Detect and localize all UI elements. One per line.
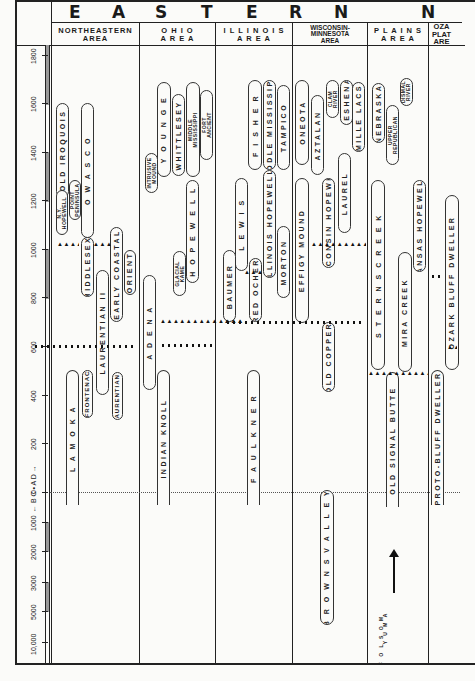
phase-bar: AZTALAN [311, 95, 324, 175]
phase-label: LAURENTIAN II [99, 291, 106, 375]
phase-label: RED OCHER [252, 258, 259, 322]
phase-bar: F I S H E R [248, 80, 262, 170]
phase-label: DISMAL RIVER [402, 81, 412, 103]
phase-bar: S T E R N S C R E E K [371, 180, 385, 370]
axis-tick-label: 800 [30, 292, 37, 304]
triangle-horizon-line: ▲▲▲▲▲▲▲▲▲▲▲▲ [368, 371, 428, 376]
phase-bar: OZARK BLUFF DWELLER [445, 195, 459, 370]
axis-tick [42, 582, 48, 583]
phase-label: TAMPICO [280, 103, 287, 152]
phase-label: OLD SIGNAL BUTTE [389, 386, 396, 494]
phase-label: MORTON [280, 239, 287, 285]
phase-bar: OLD COPPER [322, 322, 335, 392]
phase-bar: N.Y. HOPEWELL [56, 190, 68, 235]
axis-shade [46, 249, 49, 299]
phase-bar: LAURENTIAN II [96, 270, 109, 395]
phase-label: ORIENT [127, 252, 134, 293]
title-letter: N [334, 2, 348, 22]
phase-bar: ONEOTA [295, 80, 309, 165]
column-divider [139, 22, 140, 665]
phase-label: UPPER REPUBLICAN [388, 116, 398, 154]
phase-bar: FRONTENAC [82, 370, 93, 418]
phase-bar: L E W I S [235, 178, 248, 271]
phase-bar: ORIENT [124, 250, 136, 295]
phase-label: MIDDLE MISSISSIPPI [266, 80, 273, 170]
phase-label: O W A S C O [84, 136, 91, 205]
phase-label: MIRA CREEK [402, 277, 409, 346]
axis-shade [46, 152, 49, 202]
area-header-plains: P L A I N S A R E A [368, 22, 428, 46]
dotted-horizon-line [33, 345, 133, 348]
phase-label: WHITTLESEY [175, 100, 182, 170]
phase-label: AZTALAN [314, 110, 321, 160]
axis-shade [46, 522, 49, 552]
axis-tick-label: 3000 [30, 575, 37, 591]
phase-label: NEBRASKA [375, 83, 382, 143]
phase-label: L A M O K A [69, 404, 76, 471]
dotted-horizon-line [225, 321, 365, 324]
axis-tick-label: 200 [30, 438, 37, 450]
phase-bar: INTRUSIVE MOUND [145, 153, 158, 193]
phase-bar: F A U L K N E R [247, 370, 260, 505]
axis-tick-label: 10,000 [30, 634, 37, 655]
phase-bar: WISCONSIN HOPEWELL [322, 178, 335, 268]
dotted-horizon-line [160, 344, 215, 347]
phase-bar: FORT ANCIENT [200, 90, 213, 160]
axis-tick-label: 1600 [30, 96, 37, 112]
time-axis [45, 45, 50, 665]
triangle-horizon-line: ▲▲ [447, 345, 457, 350]
arrow-shaft [393, 555, 395, 593]
title-letter: S [155, 2, 167, 22]
triangle-horizon-line: ▲▲▲▲ [244, 270, 264, 275]
phase-bar: INDIAN KNOLL [157, 370, 170, 505]
axis-tick [42, 611, 48, 612]
phase-label: H O P E W E L L [189, 186, 196, 277]
area-header-wisconsin-minnesota: WISCONSIN- MINNESOTA AREA [293, 22, 367, 46]
phase-label: LAURENTIAN I [115, 372, 121, 420]
title-letter: E [246, 2, 258, 22]
phase-bar: CLAM RIVER [326, 80, 339, 118]
phase-label: L E W I S [238, 198, 245, 250]
axis-tick [42, 522, 48, 523]
axis-tick [42, 55, 48, 56]
axis-column-divider [51, 0, 52, 665]
axis-tick-label: 1000 [30, 515, 37, 531]
phase-label: WISCONSIN HOPEWELL [325, 178, 332, 268]
phase-bar: B R O W N S V A L L E Y [320, 490, 334, 625]
phase-bar: OLD IROQUOIS [56, 103, 69, 198]
phase-bar: PROTO-BLUFF DWELLER [431, 370, 444, 505]
title-letter: T [201, 2, 213, 22]
phase-bar: KANSAS HOPEWELL [413, 180, 426, 272]
phase-bar: MIDDLE MISSISSIPPI [186, 82, 200, 177]
phase-bar: MIRA CREEK [398, 252, 412, 372]
area-header-northeastern: NORTHEASTERN AREA [52, 22, 139, 46]
phase-bar: GLACIAL KAME [173, 251, 186, 296]
axis-tick [42, 492, 48, 493]
area-header-ozark-plateau: OZA PLAT ARE [429, 22, 472, 46]
title-letter: R [289, 2, 302, 22]
phase-label: GLACIAL KAME [175, 261, 185, 287]
phase-bar: POINT PENINSULA [69, 180, 81, 220]
phase-bar: LAUREL [338, 153, 351, 233]
dotted-horizon-line [430, 275, 440, 278]
phase-bar: LAURENTIAN I [112, 372, 123, 420]
phase-bar: Y O U N G E [157, 82, 171, 177]
phase-bar: DISMAL RIVER [400, 78, 413, 106]
phase-bar: ILLINOIS HOPEWELL [263, 170, 276, 278]
phase-bar: BAUMER [223, 250, 236, 322]
axis-tick [42, 443, 48, 444]
phase-label: B R O W N S V A L L E Y [324, 490, 331, 625]
axis-tick [42, 551, 48, 552]
phase-label: EFFIGY MOUND [299, 209, 306, 293]
phase-bar: EFFIGY MOUND [295, 178, 309, 323]
phase-label: OLD IROQUOIS [59, 110, 66, 192]
triangle-horizon-line: ▲▲▲▲▲▲▲▲▲▲▲ [311, 242, 366, 247]
phase-bar: UPPER REPUBLICAN [386, 105, 399, 165]
title-letter: N [421, 2, 435, 22]
column-divider [215, 22, 216, 665]
area-header-ohio: O H I O A R E A [140, 22, 215, 46]
axis-tick-label: 5000 [30, 604, 37, 620]
axis-tick-label: 1000 [30, 242, 37, 258]
phase-label: INTRUSIVE MOUND [147, 157, 157, 188]
triangle-horizon-line: ▲▲▲▲ [93, 242, 111, 247]
